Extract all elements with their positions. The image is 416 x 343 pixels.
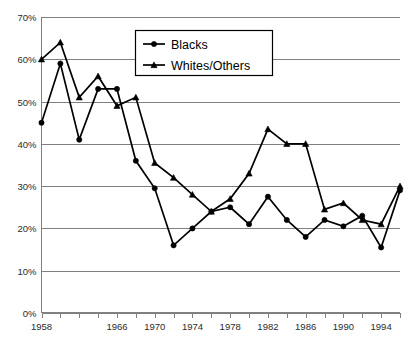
data-point-marker-circle: [151, 41, 156, 46]
y-axis-tick-label: 10%: [17, 266, 37, 277]
data-point-marker-circle: [228, 205, 233, 210]
x-axis-tick-label: 1966: [106, 321, 127, 332]
y-axis-tick-label: 0%: [23, 308, 37, 319]
data-point-marker-circle: [152, 186, 157, 191]
line-chart: 0%10%20%30%40%50%60%70% 1958196619701974…: [0, 0, 416, 343]
data-point-marker-circle: [133, 158, 138, 163]
data-point-marker-circle: [114, 86, 119, 91]
data-point-marker-circle: [246, 222, 251, 227]
data-point-marker-circle: [265, 194, 270, 199]
y-axis-tick-label: 50%: [17, 97, 37, 108]
data-point-marker-circle: [322, 217, 327, 222]
x-axis-tick-label: 1990: [333, 321, 354, 332]
data-point-marker-circle: [303, 234, 308, 239]
data-point-marker-circle: [341, 224, 346, 229]
data-point-marker-circle: [284, 217, 289, 222]
data-point-marker-circle: [190, 226, 195, 231]
chart-container: 0%10%20%30%40%50%60%70% 1958196619701974…: [0, 0, 416, 343]
y-axis-tick-label: 20%: [17, 223, 37, 234]
data-point-marker-circle: [96, 86, 101, 91]
y-axis-tick-label: 60%: [17, 54, 37, 65]
x-axis-tick-label: 1978: [220, 321, 241, 332]
data-point-marker-circle: [379, 245, 384, 250]
x-axis-tick-label: 1970: [144, 321, 165, 332]
x-axis-tick-label: 1958: [31, 321, 52, 332]
x-axis-tick-label: 1982: [257, 321, 278, 332]
x-axis-tick-label: 1974: [182, 321, 203, 332]
y-axis-tick-label: 40%: [17, 139, 37, 150]
x-axis-tick-label: 1986: [295, 321, 316, 332]
chart-legend: BlacksWhites/Others: [136, 31, 273, 76]
x-axis-tick-label: 1994: [371, 321, 392, 332]
data-point-marker-circle: [39, 120, 44, 125]
data-point-marker-circle: [77, 137, 82, 142]
data-point-marker-circle: [58, 61, 63, 66]
y-axis-tick-label: 30%: [17, 181, 37, 192]
legend-label: Whites/Others: [171, 59, 250, 73]
legend-label: Blacks: [171, 38, 208, 52]
data-point-marker-circle: [171, 243, 176, 248]
y-axis-tick-label: 70%: [17, 12, 37, 23]
